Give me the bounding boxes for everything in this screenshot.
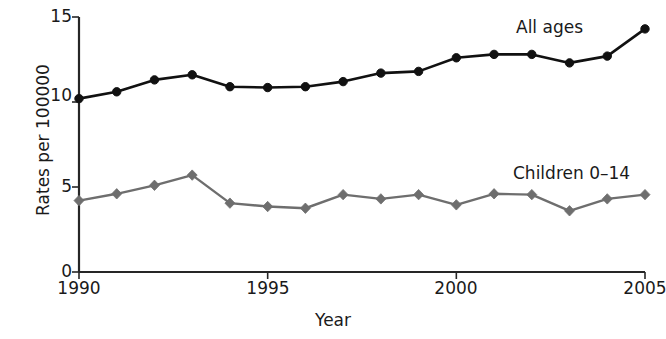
data-point <box>301 83 309 91</box>
data-point <box>528 50 536 58</box>
data-point <box>451 200 461 210</box>
data-point <box>74 195 84 205</box>
x-axis-title: Year <box>0 310 666 330</box>
data-point <box>602 194 612 204</box>
series-label-all-ages: All ages <box>516 17 583 37</box>
data-point <box>414 67 422 75</box>
data-point <box>113 88 121 96</box>
data-point <box>188 71 196 79</box>
y-tick-label-15: 15 <box>32 6 72 26</box>
data-point <box>641 25 649 33</box>
x-tick-label-1990: 1990 <box>39 278 119 298</box>
data-point <box>263 83 271 91</box>
data-point <box>414 189 424 199</box>
data-point <box>339 77 347 85</box>
axis-lines <box>72 17 645 279</box>
series-line-all-ages <box>79 29 645 99</box>
data-point <box>527 189 537 199</box>
data-point <box>338 189 348 199</box>
data-point <box>490 50 498 58</box>
x-tick-label-2000: 2000 <box>416 278 496 298</box>
data-point <box>150 76 158 84</box>
data-point <box>452 54 460 62</box>
line-chart: 15 10 5 0 1990 1995 2000 2005 Rates per … <box>0 0 666 339</box>
data-point <box>377 69 385 77</box>
data-point <box>300 203 310 213</box>
data-point <box>112 189 122 199</box>
data-series <box>74 25 650 216</box>
data-point <box>565 59 573 67</box>
data-point <box>75 94 83 102</box>
data-point <box>263 201 273 211</box>
data-point <box>640 189 650 199</box>
y-axis-title: Rates per 100000 <box>33 40 53 240</box>
data-point <box>489 189 499 199</box>
data-point <box>565 206 575 216</box>
data-point <box>226 83 234 91</box>
x-tick-label-2005: 2005 <box>605 278 666 298</box>
series-label-children: Children 0–14 <box>513 163 630 183</box>
data-point <box>376 194 386 204</box>
data-point <box>149 180 159 190</box>
x-tick-label-1995: 1995 <box>228 278 308 298</box>
data-point <box>603 52 611 60</box>
